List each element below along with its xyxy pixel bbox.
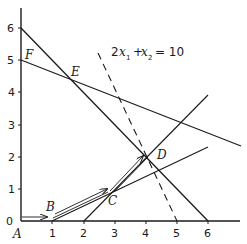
line-from-x1 <box>52 147 208 221</box>
point-label-A: A <box>12 227 22 241</box>
svg-text:2: 2 <box>111 45 119 59</box>
svg-text:1: 1 <box>126 54 130 62</box>
y-tick-3: 3 <box>8 119 15 132</box>
svg-text:x: x <box>119 45 126 59</box>
lp-diagram: 0 1 2 3 4 5 6 1 2 3 4 5 6 A B C D E F 2 … <box>0 0 247 244</box>
svg-text:x: x <box>141 45 148 59</box>
path-arrow-B-to-C <box>53 189 108 218</box>
x-tick-6: 6 <box>204 227 211 240</box>
point-label-D: D <box>156 148 167 162</box>
point-label-E: E <box>70 65 80 79</box>
y-tick-2: 2 <box>8 151 15 164</box>
x-tick-3: 3 <box>111 227 118 240</box>
point-label-F: F <box>24 48 34 62</box>
x-tick-4: 4 <box>142 227 149 240</box>
point-label-C: C <box>108 194 117 208</box>
y-tick-0: 0 <box>6 215 13 228</box>
y-tick-6: 6 <box>7 22 14 35</box>
constraint-line-from-F <box>21 60 241 146</box>
y-tick-4: 4 <box>8 86 15 99</box>
point-label-B: B <box>45 200 55 214</box>
x-tick-2: 2 <box>80 227 87 240</box>
svg-text:= 10: = 10 <box>155 45 184 59</box>
svg-text:2: 2 <box>148 54 152 62</box>
y-tick-1: 1 <box>8 183 15 196</box>
y-tick-5: 5 <box>7 54 14 67</box>
x-tick-1: 1 <box>49 227 56 240</box>
x-tick-5: 5 <box>173 227 180 240</box>
equation-label: 2 x 1 + x 2 = 10 <box>111 45 184 62</box>
